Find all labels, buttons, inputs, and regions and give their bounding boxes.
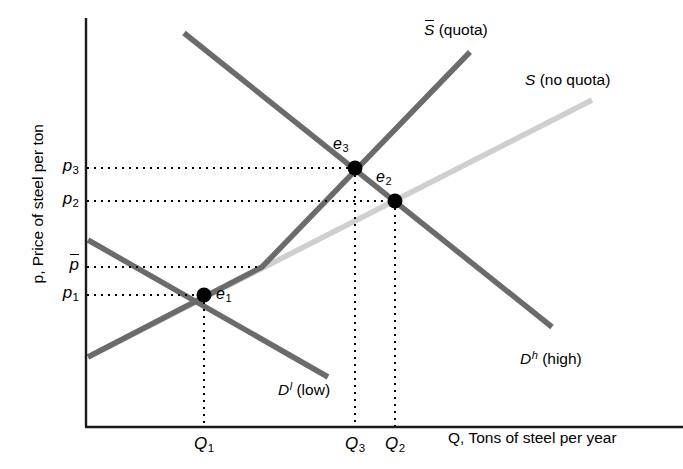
quantity-tick-Q3: Q3 (338, 435, 372, 454)
curve-label-D_low: Dl (low) (278, 381, 330, 397)
equilibrium-label-e2: e2 (376, 169, 392, 187)
curve-D_low (88, 240, 328, 377)
price-tick-p2: p2 (33, 190, 79, 209)
price-tick-p3: p3 (33, 157, 79, 176)
quantity-tick-Q1: Q1 (187, 435, 221, 454)
price-tick-p1: p1 (33, 284, 79, 303)
equilibrium-label-e3: e3 (333, 136, 349, 154)
equilibrium-label-e1: e1 (216, 286, 232, 304)
curve-label-S_noquota: S (no quota) (525, 72, 610, 88)
x-axis-title: Q, Tons of steel per year (448, 430, 617, 446)
equilibrium-point-e3 (348, 161, 363, 176)
curve-label-S_quota: S (quota) (424, 22, 488, 38)
equilibrium-point-e1 (197, 288, 212, 303)
curve-S_quota (88, 52, 470, 357)
quantity-tick-Q2: Q2 (378, 435, 412, 454)
guide-lines-layer (87, 168, 395, 427)
price-tick-pbar: p (33, 256, 79, 273)
curves-layer (88, 33, 592, 377)
equilibrium-point-e2 (388, 194, 403, 209)
curve-label-D_high: Dh (high) (520, 350, 582, 366)
figure-supply-demand-quota: p, Price of steel per ton Q, Tons of ste… (0, 0, 683, 469)
